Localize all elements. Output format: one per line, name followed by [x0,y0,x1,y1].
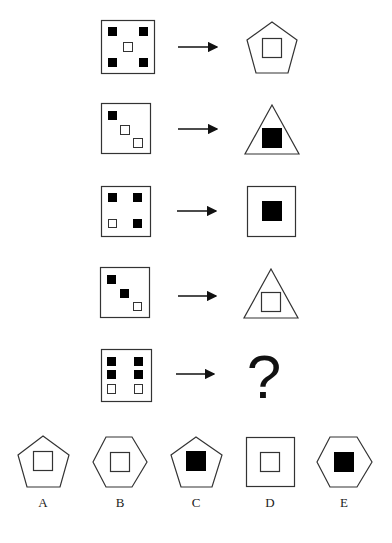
row-4-source-box [101,268,150,318]
black-dot [108,27,117,36]
row-2-source-box [102,104,151,154]
row-2-result-triangle [245,105,299,154]
black-dot [134,370,143,379]
row-2 [102,104,300,155]
option-label: D [265,495,274,510]
row-5: ? [102,342,282,411]
white-dot [134,139,143,148]
option-b[interactable]: B [93,437,147,510]
black-dot [139,27,148,36]
black-dot [134,357,143,366]
row-3-source-box [102,187,151,237]
black-dot [120,289,129,298]
row-1 [102,21,298,74]
black-dot [107,275,116,284]
black-dot [108,111,117,120]
row-3-result-square [248,187,296,237]
option-e[interactable]: E [317,437,372,510]
row-5-source-box [102,350,152,402]
black-dot [107,357,116,366]
question-mark: ? [247,342,281,411]
black-dot [133,219,142,228]
option-label: A [38,495,48,510]
black-dot [107,370,116,379]
option-label: E [340,495,348,510]
option-label: C [192,495,201,510]
option-label: B [116,495,125,510]
white-dot [124,43,133,52]
option-c[interactable]: C [171,437,222,510]
white-dot [134,303,142,311]
row-1-source-box [102,21,155,74]
option-d[interactable]: D [247,438,295,511]
white-dot [135,385,143,394]
white-dot [109,220,117,228]
black-dot [108,58,117,67]
row-4 [101,268,299,319]
black-dot [108,193,117,202]
white-dot [108,385,116,394]
row-3 [102,187,296,237]
puzzle-canvas: ? A B C D E [0,0,392,543]
black-dot [139,58,148,67]
row-1-result-pentagon [247,22,297,73]
option-a[interactable]: A [18,436,69,510]
black-dot [133,193,142,202]
row-4-result-triangle [244,269,298,318]
white-dot [121,126,130,135]
